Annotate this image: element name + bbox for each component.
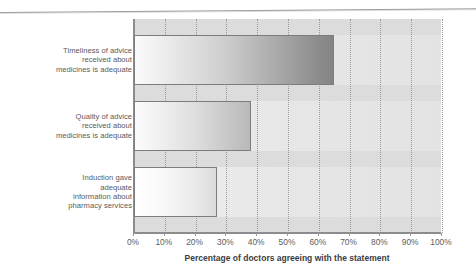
bar-induction — [134, 167, 217, 217]
x-axis-title: Percentage of doctors agreeing with the … — [133, 252, 441, 264]
x-tick-mark — [379, 233, 380, 236]
category-label-3: Induction gaveadequateinformation aboutp… — [8, 173, 132, 211]
bar-timeliness — [134, 35, 334, 85]
category-axis-labels: Timeliness of advicereceived aboutmedici… — [8, 19, 132, 233]
gridline-80pct — [380, 19, 381, 233]
x-tick-label-100pct: 100% — [421, 237, 461, 248]
gridline-70pct — [350, 19, 351, 233]
category-label-line: received about — [8, 55, 132, 64]
category-label-2: Quality of advicereceived aboutmedicines… — [8, 112, 132, 140]
x-tick-mark — [225, 233, 226, 236]
category-label-line: received about — [8, 121, 132, 130]
category-label-1: Timeliness of advicereceived aboutmedici… — [8, 46, 132, 74]
x-tick-mark — [256, 233, 257, 236]
bar-chart-figure: Timeliness of advicereceived aboutmedici… — [0, 0, 476, 277]
x-tick-mark — [287, 233, 288, 236]
category-label-line: adequate — [8, 183, 132, 192]
plot-area — [133, 19, 441, 233]
bar-quality — [134, 101, 251, 151]
category-label-line: medicines is adequate — [8, 65, 132, 74]
category-label-line: medicines is adequate — [8, 131, 132, 140]
x-tick-mark — [318, 233, 319, 236]
category-label-line: information about — [8, 192, 132, 201]
category-label-line: Induction gave — [8, 173, 132, 182]
gridline-90pct — [411, 19, 412, 233]
x-axis-tick-labels: 0%10%20%30%40%50%60%70%80%90%100% — [0, 237, 476, 250]
x-tick-mark — [133, 233, 134, 236]
x-tick-mark — [195, 233, 196, 236]
category-label-line: pharmacy services — [8, 201, 132, 210]
x-tick-mark — [441, 233, 442, 236]
category-label-line: Quality of advice — [8, 112, 132, 121]
gridline-100pct — [442, 19, 443, 233]
x-tick-mark — [349, 233, 350, 236]
x-tick-mark — [164, 233, 165, 236]
category-label-line: Timeliness of advice — [8, 46, 132, 55]
x-tick-mark — [410, 233, 411, 236]
